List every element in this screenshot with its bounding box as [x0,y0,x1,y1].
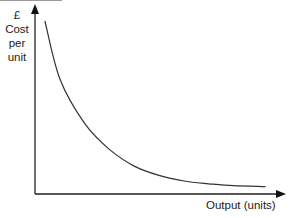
y-label-line: Cost [0,22,34,36]
y-label-line: unit [0,50,34,64]
y-label-line: £ [0,8,34,22]
cost-curve [45,21,266,187]
x-axis-arrow-icon [276,190,286,198]
x-axis-label: Output (units) [206,199,276,211]
y-label-line: per [0,36,34,50]
chart-canvas [0,0,292,218]
y-axis-label: £ Cost per unit [0,8,34,64]
